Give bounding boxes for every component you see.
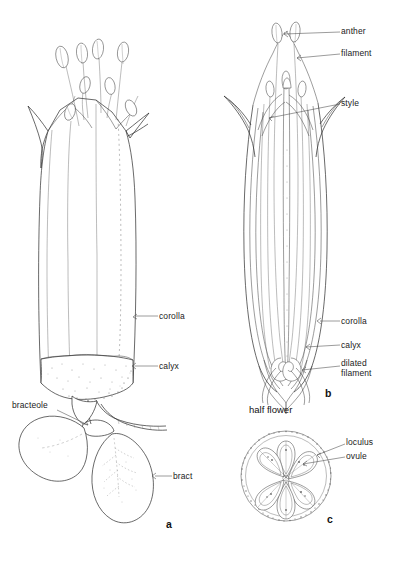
label-corolla-a: corolla [159, 311, 185, 321]
pedicel-node [82, 420, 114, 436]
anther-b-inner-right [297, 81, 307, 98]
bracteole-leaf [19, 416, 88, 481]
corolla-wall-right-outer [294, 103, 327, 392]
caption-half-flower: half flower [249, 404, 292, 415]
filament-b-right-2 [295, 96, 303, 368]
anther-a7 [116, 41, 130, 62]
label-bracteole-a: bracteole [12, 400, 48, 410]
corolla-arch-left-b2 [262, 102, 285, 136]
anther-b-inner-left [265, 81, 275, 98]
label-calyx-a: calyx [159, 361, 179, 371]
panel-b-drawing [224, 21, 345, 414]
ovary-right-b [283, 358, 301, 381]
figure-letter-c: c [327, 513, 333, 525]
calyx-lobe-left-b [224, 96, 255, 157]
corolla-wall-left-outer [244, 105, 277, 392]
anther-a3 [78, 76, 92, 95]
label-filament-b: filament [341, 48, 372, 58]
label-corolla-b: corolla [341, 316, 367, 326]
anther-a6 [104, 77, 117, 95]
corolla-tube-a [39, 98, 136, 394]
label-bract-a: bract [173, 471, 192, 481]
style-texture [287, 150, 288, 357]
calyx-cup-a [41, 355, 133, 399]
illustration-plate: corolla calyx bracteole bract a anther f… [0, 0, 396, 561]
leader-filament-b [297, 54, 340, 58]
panel-c-drawing [241, 431, 345, 522]
bract-leaf [92, 434, 154, 523]
panel-a-drawing [19, 38, 172, 522]
filament-b-left-long [274, 44, 284, 370]
label-anther-b: anther [341, 26, 366, 36]
label-style-b: style [341, 98, 359, 108]
filament-b-left-2 [268, 96, 276, 368]
anther-a8 [123, 98, 139, 118]
botanical-line-drawing [0, 0, 396, 561]
anther-a5 [91, 38, 104, 59]
label-loculus-c: loculus [346, 437, 373, 447]
figure-letter-a: a [166, 518, 172, 530]
leader-dilated-filament-b [302, 366, 340, 370]
anther-a2 [54, 45, 70, 69]
label-ovule-c: ovule [346, 451, 367, 461]
label-calyx-b: calyx [341, 340, 361, 350]
style-line-left [283, 86, 286, 380]
style-line-right [287, 86, 290, 380]
sepal-tip-right-a2 [128, 124, 148, 136]
filament-a7 [116, 62, 122, 120]
figure-letter-b: b [325, 387, 331, 399]
filament-b-right-long [288, 44, 298, 370]
label-dilated-filament-b: dilated filament [341, 358, 385, 378]
